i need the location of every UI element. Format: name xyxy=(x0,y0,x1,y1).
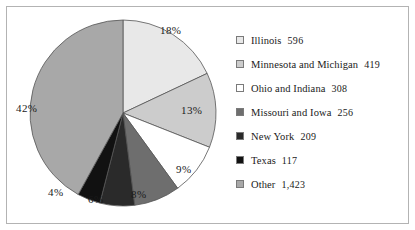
legend-item-texas[interactable]: Texas 117 xyxy=(236,148,408,172)
legend-label: Minnesota and Michigan xyxy=(251,59,358,70)
legend-item-illinois[interactable]: Illinois 596 xyxy=(236,28,408,52)
pie-label-other: 42% xyxy=(16,102,37,114)
legend-value: 596 xyxy=(288,35,304,46)
legend-value: 209 xyxy=(300,131,316,142)
pie-label-minnesota-michigan: 13% xyxy=(181,104,202,116)
pie-label-ohio-indiana: 9% xyxy=(176,163,191,175)
pie-label-texas: 4% xyxy=(48,186,63,198)
legend-swatch-icon xyxy=(236,180,244,188)
legend-item-other[interactable]: Other 1,423 xyxy=(236,172,408,196)
legend-swatch-icon xyxy=(236,84,244,92)
legend-swatch-icon xyxy=(236,108,244,116)
legend-label: Ohio and Indiana xyxy=(251,83,326,94)
pie-chart-figure: 18% 13% 9% 8% 6% 4% 42% Illinois 596 Min… xyxy=(0,0,415,230)
chart-legend: Illinois 596 Minnesota and Michigan 419 … xyxy=(236,28,408,196)
legend-label: Texas xyxy=(251,155,276,166)
legend-item-minnesota-and-michigan[interactable]: Minnesota and Michigan 419 xyxy=(236,52,408,76)
legend-label: New York xyxy=(251,131,294,142)
legend-swatch-icon xyxy=(236,36,244,44)
legend-value: 308 xyxy=(332,83,348,94)
pie-label-illinois: 18% xyxy=(160,24,181,36)
pie-label-missouri-iowa: 8% xyxy=(131,188,146,200)
legend-swatch-icon xyxy=(236,132,244,140)
legend-swatch-icon xyxy=(236,156,244,164)
legend-label: Missouri and Iowa xyxy=(251,107,331,118)
legend-value: 117 xyxy=(282,155,298,166)
legend-value: 1,423 xyxy=(281,179,305,190)
legend-label: Other xyxy=(251,179,275,190)
legend-value: 256 xyxy=(337,107,353,118)
legend-item-missouri-and-iowa[interactable]: Missouri and Iowa 256 xyxy=(236,100,408,124)
pie-chart-area: 18% 13% 9% 8% 6% 4% 42% xyxy=(14,10,234,220)
pie-label-new-york: 6% xyxy=(88,193,103,205)
legend-item-new-york[interactable]: New York 209 xyxy=(236,124,408,148)
legend-item-ohio-and-indiana[interactable]: Ohio and Indiana 308 xyxy=(236,76,408,100)
legend-swatch-icon xyxy=(236,60,244,68)
legend-label: Illinois xyxy=(251,35,282,46)
legend-value: 419 xyxy=(364,59,380,70)
